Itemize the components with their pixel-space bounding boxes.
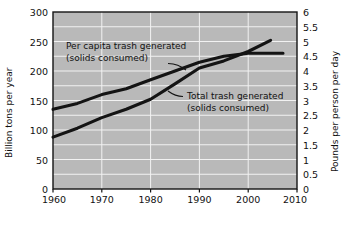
y-tick-label-250: 250 <box>30 37 48 48</box>
y-axis-title: Billion tons per year <box>4 67 14 158</box>
y-tick-label-50: 50 <box>36 155 48 166</box>
x-tick-label-1970: 1970 <box>90 194 114 205</box>
y2-tick-label-4-5: 4.5 <box>303 51 318 62</box>
chart-svg: Per capita trash generated (solids consu… <box>0 0 342 226</box>
y2-tick-label-2: 2 <box>303 125 309 136</box>
y2-tick-label-1-5: 1.5 <box>303 140 318 151</box>
y2-tick-label-4: 4 <box>303 66 309 77</box>
x-tick-label-2000: 2000 <box>236 194 260 205</box>
y2-tick-label-3: 3 <box>303 96 309 107</box>
y2-tick-label-1: 1 <box>303 155 309 166</box>
y-tick-label-200: 200 <box>30 66 48 77</box>
y2-tick-label-0-5: 0.5 <box>303 169 318 180</box>
x-tick-label-1960: 1960 <box>42 194 66 205</box>
y2-tick-label-6: 6 <box>303 7 309 18</box>
chart-figure: Per capita trash generated (solids consu… <box>0 0 342 226</box>
per-capita-label-line1: Per capita trash generated <box>66 41 186 51</box>
x-tick-label-1990: 1990 <box>187 194 211 205</box>
x-tick-label-2010: 2010 <box>283 194 307 205</box>
per-capita-label-line2: (solids consumed) <box>66 53 148 63</box>
y2-tick-label-3-5: 3.5 <box>303 81 318 92</box>
total-trash-label-line2: (solids consumed) <box>187 103 269 113</box>
y-tick-label-150: 150 <box>30 96 48 107</box>
y-tick-label-100: 100 <box>30 125 48 136</box>
x-tick-label-1980: 1980 <box>139 194 163 205</box>
y-tick-label-300: 300 <box>30 7 48 18</box>
y2-tick-label-0: 0 <box>303 184 309 195</box>
total-trash-label-line1: Total trash generated <box>186 91 283 101</box>
y2-tick-label-5: 5 <box>303 37 309 48</box>
y2-tick-label-5-5: 5.5 <box>303 22 318 33</box>
y2-axis-title: Pounds per person per day <box>330 50 340 172</box>
y-tick-label-0: 0 <box>42 184 48 195</box>
y2-tick-label-2-5: 2.5 <box>303 110 318 121</box>
